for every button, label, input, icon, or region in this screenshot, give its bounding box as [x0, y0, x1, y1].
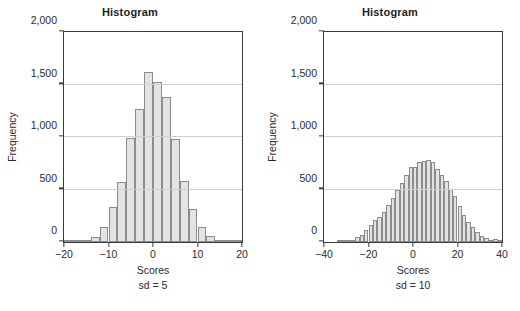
histogram-bar — [180, 181, 189, 242]
x-tick-label--40: −40 — [315, 248, 333, 260]
histogram-bar — [135, 109, 144, 242]
gridline-y-500 — [64, 189, 242, 190]
histogram-bar — [153, 82, 162, 242]
x-tick-mark — [108, 242, 109, 247]
x-tick-mark — [457, 242, 458, 247]
gridline-y-500 — [324, 189, 502, 190]
x-tick-label-0: 0 — [150, 248, 156, 260]
plot-area-left: 05001,0001,5002,000−20−1001020 — [63, 31, 243, 243]
histogram-bar — [206, 236, 215, 242]
y-tick-label-0: 0 — [51, 224, 64, 236]
y-tick-label-500: 500 — [299, 172, 324, 184]
x-tick-mark — [241, 242, 242, 247]
histogram-bar — [82, 240, 91, 242]
y-tick-label-2000: 2,000 — [291, 14, 324, 26]
x-tick-label--20: −20 — [360, 248, 378, 260]
x-tick-label-0: 0 — [410, 248, 416, 260]
y-tick-mark — [59, 30, 64, 31]
y-tick-mark — [319, 188, 324, 189]
y-tick-label-500: 500 — [39, 172, 64, 184]
x-tick-label-10: 10 — [192, 248, 204, 260]
histogram-bar — [109, 207, 118, 242]
histogram-bar — [73, 240, 82, 242]
histogram-bar — [117, 182, 126, 242]
x-tick-mark — [501, 242, 502, 247]
histogram-bar — [100, 227, 109, 242]
histogram-bar — [171, 139, 180, 242]
y-tick-label-1500: 1,500 — [291, 67, 324, 79]
histogram-bar — [64, 240, 73, 242]
bar-series-left — [64, 32, 242, 242]
x-axis-label-left: Scores — [63, 264, 243, 276]
histogram-bar — [91, 237, 100, 242]
y-axis-label-left: Frequency — [6, 112, 18, 162]
histogram-panel-left: Histogram Frequency 05001,0001,5002,000−… — [0, 0, 260, 311]
histogram-bar — [189, 209, 198, 242]
histogram-bar — [215, 240, 224, 242]
plot-area-right: 05001,0001,5002,000−40−2002040 — [323, 31, 503, 243]
figure-root: Histogram Frequency 05001,0001,5002,000−… — [0, 0, 520, 311]
x-tick-mark — [323, 242, 324, 247]
x-tick-mark — [368, 242, 369, 247]
histogram-bar — [162, 97, 171, 242]
gridline-y-1000 — [324, 136, 502, 137]
histogram-bar — [144, 72, 153, 242]
x-tick-label-40: 40 — [496, 248, 508, 260]
x-tick-label-20: 20 — [236, 248, 248, 260]
y-tick-label-1000: 1,000 — [31, 119, 64, 131]
y-tick-mark — [59, 188, 64, 189]
y-tick-label-0: 0 — [311, 224, 324, 236]
x-tick-label--10: −10 — [100, 248, 118, 260]
y-tick-label-1000: 1,000 — [291, 119, 324, 131]
x-tick-mark — [152, 242, 153, 247]
x-tick-mark — [63, 242, 64, 247]
sd-annotation-right: sd = 10 — [323, 279, 503, 291]
histogram-panel-right: Histogram Frequency 05001,0001,5002,000−… — [260, 0, 520, 311]
histogram-bar — [224, 240, 233, 242]
gridline-y-1000 — [64, 136, 242, 137]
x-tick-label--20: −20 — [55, 248, 73, 260]
y-axis-label-right: Frequency — [266, 112, 278, 162]
histogram-bar — [126, 138, 135, 242]
sd-annotation-left: sd = 5 — [63, 279, 243, 291]
x-axis-label-right: Scores — [323, 264, 503, 276]
bar-series-right — [324, 32, 502, 242]
histogram-bar — [198, 227, 207, 242]
gridline-y-1500 — [324, 84, 502, 85]
y-tick-mark — [59, 83, 64, 84]
y-tick-mark — [319, 135, 324, 136]
y-tick-mark — [319, 83, 324, 84]
x-tick-label-20: 20 — [452, 248, 464, 260]
gridline-y-1500 — [64, 84, 242, 85]
y-tick-label-2000: 2,000 — [31, 14, 64, 26]
y-tick-mark — [319, 30, 324, 31]
x-tick-mark — [412, 242, 413, 247]
y-tick-label-1500: 1,500 — [31, 67, 64, 79]
y-tick-mark — [59, 135, 64, 136]
x-tick-mark — [197, 242, 198, 247]
